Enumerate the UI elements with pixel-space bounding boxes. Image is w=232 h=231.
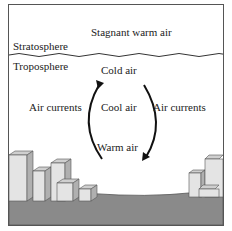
cool-air-label: Cool air: [101, 102, 137, 113]
air-currents-right-label: Air currents: [153, 102, 206, 113]
diagram-graphics: [9, 5, 223, 225]
warm-air-label: Warm air: [97, 142, 138, 153]
troposphere-label: Troposphere: [13, 61, 68, 72]
right-arrow-icon: [142, 85, 156, 161]
stagnant-warm-air-label: Stagnant warm air: [91, 27, 172, 38]
stratosphere-label: Stratosphere: [13, 41, 68, 52]
right-buildings: [189, 155, 223, 197]
diagram-frame: Stagnant warm air Stratosphere Troposphe…: [8, 4, 224, 226]
cold-air-label: Cold air: [101, 65, 137, 76]
left-buildings: [9, 151, 97, 201]
tropopause-line: [9, 54, 223, 57]
air-currents-left-label: Air currents: [29, 102, 82, 113]
